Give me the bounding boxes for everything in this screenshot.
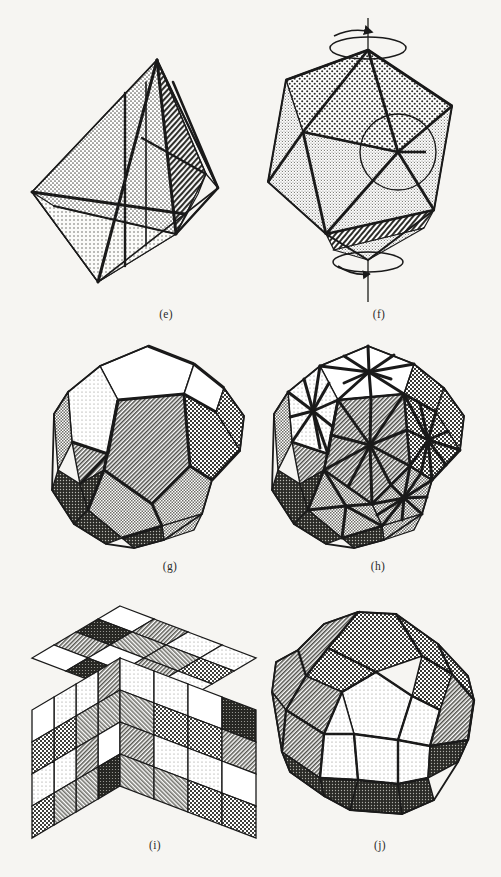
caption-f: (f) [373,308,385,320]
panel-h-dodecahedron-subdivided [264,338,484,554]
panel-i-cube [24,600,244,832]
dodecahedron-star-drawing [264,338,484,554]
figure-plate: (e) [0,0,501,877]
dodecahedron-drawing [44,338,264,554]
caption-e: (e) [159,308,173,320]
caption-i: (i) [149,839,161,851]
panel-f-icosahedron [256,10,476,306]
rco-face-bottom-dark-centre [350,780,402,814]
panel-g-dodecahedron [44,338,264,554]
rco-face-lower-left-stip [320,734,358,780]
cube-drawing [24,600,244,832]
caption-g: (g) [163,560,177,572]
cube-right-face [120,658,256,838]
caption-j: (j) [374,839,386,851]
rotation-arrow-bottom-head [338,266,370,274]
cube-front-face [32,658,120,838]
tetrahedron-drawing [28,46,238,296]
panel-j-rhombicuboctahedron [262,600,486,832]
rco-face-lower-centre-stip [354,734,398,784]
rhombicuboctahedron-drawing [262,600,486,832]
icosahedron-drawing [256,10,476,306]
dodeca-face-left-band [54,392,72,470]
dodecaH-face-left-band [274,392,292,470]
rotation-arrow-top-head [334,30,372,36]
caption-h: (h) [371,560,385,572]
panel-e-tetrahedron [28,46,238,296]
